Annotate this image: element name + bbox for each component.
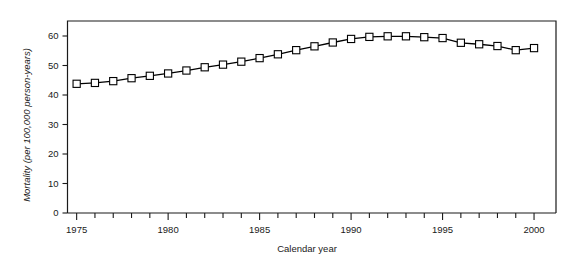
x-tick-label: 1975 <box>66 224 87 235</box>
y-tick-label: 40 <box>48 89 59 100</box>
data-point-marker <box>494 42 501 49</box>
y-tick-label: 10 <box>48 178 59 189</box>
data-markers <box>73 33 538 88</box>
data-point-marker <box>183 67 190 74</box>
data-point-marker <box>293 47 300 54</box>
data-point-marker <box>146 72 153 79</box>
y-tick-label: 20 <box>48 148 59 159</box>
data-point-marker <box>439 34 446 41</box>
data-point-marker <box>128 75 135 82</box>
y-axis-ticks <box>63 36 68 213</box>
data-point-marker <box>110 78 117 85</box>
x-tick-label: 1980 <box>158 224 179 235</box>
data-line <box>77 36 534 83</box>
data-point-marker <box>201 64 208 71</box>
x-tick-label: 1990 <box>341 224 362 235</box>
data-point-marker <box>256 55 263 62</box>
data-point-marker <box>311 43 318 50</box>
data-point-marker <box>165 70 172 77</box>
data-point-marker <box>402 33 409 40</box>
y-tick-label: 60 <box>48 30 59 41</box>
data-point-marker <box>530 44 537 51</box>
x-tick-label: 2000 <box>523 224 544 235</box>
data-point-marker <box>512 47 519 54</box>
x-axis-tick-labels: 197519801985199019952000 <box>66 224 545 235</box>
data-point-marker <box>421 34 428 41</box>
data-point-marker <box>347 35 354 42</box>
y-tick-label: 50 <box>48 60 59 71</box>
y-axis-tick-labels: 0102030405060 <box>48 30 59 218</box>
data-point-marker <box>274 51 281 58</box>
chart-figure: 0102030405060 197519801985199019952000 M… <box>0 0 579 272</box>
data-point-marker <box>384 33 391 40</box>
y-axis-title: Mortality (per 100,000 person-years) <box>21 48 32 202</box>
y-tick-label: 0 <box>53 207 58 218</box>
y-tick-label: 30 <box>48 119 59 130</box>
x-axis-title: Calendar year <box>277 243 337 254</box>
data-point-marker <box>73 80 80 87</box>
data-point-marker <box>457 39 464 46</box>
data-point-marker <box>219 61 226 68</box>
data-point-marker <box>476 41 483 48</box>
mortality-line-chart: 0102030405060 197519801985199019952000 M… <box>0 0 579 272</box>
x-tick-label: 1985 <box>249 224 270 235</box>
x-tick-label: 1995 <box>432 224 453 235</box>
data-point-marker <box>91 79 98 86</box>
data-point-marker <box>366 33 373 40</box>
x-axis-ticks <box>77 213 534 220</box>
data-point-marker <box>329 39 336 46</box>
data-point-marker <box>238 58 245 65</box>
